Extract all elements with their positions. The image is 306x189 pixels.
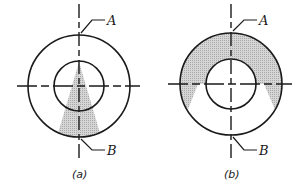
- diagram-canvas: A B (a) A B (b): [0, 0, 306, 189]
- leader-a-bottom: [81, 139, 105, 150]
- point-label-b-bottom: B: [258, 143, 269, 158]
- leader-b-bottom: [233, 137, 257, 150]
- caption-a: (a): [72, 168, 87, 181]
- point-label-b-top: A: [258, 13, 268, 28]
- figure-a: A B (a): [17, 4, 140, 181]
- leader-a-top: [81, 20, 105, 33]
- leader-b-top: [233, 20, 257, 31]
- figure-b: A B (b): [168, 4, 292, 181]
- point-label-a-top: A: [106, 13, 116, 28]
- caption-b: (b): [224, 168, 240, 181]
- point-label-a-bottom: B: [106, 143, 117, 158]
